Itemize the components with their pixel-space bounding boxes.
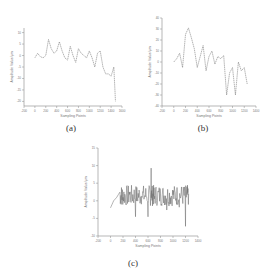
- svg-text:-200: -200: [159, 109, 165, 113]
- svg-text:-200: -200: [21, 109, 27, 113]
- svg-text:20: 20: [156, 38, 160, 42]
- chart-b: -2000200400600800100012001400-40-30-20-1…: [140, 0, 268, 135]
- svg-text:1600: 1600: [119, 109, 126, 113]
- svg-text:Sampling Points: Sampling Points: [60, 114, 86, 118]
- chart-b-plot: -2000200400600800100012001400-40-30-20-1…: [140, 0, 268, 120]
- svg-text:-15: -15: [17, 88, 22, 92]
- svg-text:40: 40: [156, 16, 160, 20]
- svg-text:Sampling Points: Sampling Points: [135, 244, 161, 248]
- svg-text:200: 200: [43, 109, 48, 113]
- svg-text:200: 200: [120, 239, 125, 243]
- chart-a: -20002004006008001000120014001600-20-15-…: [0, 0, 134, 135]
- svg-text:Amplitude Value/μm: Amplitude Value/μm: [84, 176, 88, 207]
- svg-text:-10: -10: [91, 234, 96, 238]
- svg-text:-200: -200: [95, 239, 101, 243]
- svg-text:-10: -10: [17, 76, 22, 80]
- svg-text:1200: 1200: [97, 109, 104, 113]
- svg-text:Sampling Points: Sampling Points: [196, 114, 222, 118]
- svg-text:5: 5: [19, 42, 21, 46]
- svg-text:10: 10: [156, 49, 160, 53]
- svg-text:Amplitude Value/μm: Amplitude Value/μm: [148, 46, 152, 77]
- svg-text:800: 800: [158, 239, 163, 243]
- svg-text:0: 0: [34, 109, 36, 113]
- svg-text:400: 400: [195, 109, 200, 113]
- svg-text:-20: -20: [17, 99, 22, 103]
- svg-text:1000: 1000: [170, 239, 177, 243]
- chart-a-plot: -20002004006008001000120014001600-20-15-…: [0, 0, 134, 120]
- svg-text:400: 400: [133, 239, 138, 243]
- svg-text:-10: -10: [155, 71, 160, 75]
- chart-c: -2000200400600800100012001400-10-5051015…: [70, 140, 210, 260]
- svg-text:1400: 1400: [253, 109, 260, 113]
- svg-text:0: 0: [157, 60, 159, 64]
- svg-text:-30: -30: [155, 93, 160, 97]
- svg-text:1200: 1200: [182, 239, 189, 243]
- svg-text:Amplitude Value/μm: Amplitude Value/μm: [10, 51, 14, 82]
- svg-text:10: 10: [92, 164, 96, 168]
- svg-text:400: 400: [54, 109, 59, 113]
- svg-text:-5: -5: [92, 216, 95, 220]
- svg-text:-40: -40: [155, 104, 160, 108]
- svg-text:0: 0: [110, 239, 112, 243]
- svg-text:1200: 1200: [241, 109, 248, 113]
- svg-text:-5: -5: [18, 65, 21, 69]
- svg-text:200: 200: [183, 109, 188, 113]
- svg-text:-20: -20: [155, 82, 160, 86]
- svg-text:0: 0: [19, 54, 21, 58]
- svg-text:800: 800: [76, 109, 81, 113]
- svg-text:5: 5: [93, 181, 95, 185]
- caption-a: (a): [56, 123, 86, 133]
- caption-b: (b): [188, 123, 218, 133]
- svg-text:600: 600: [145, 239, 150, 243]
- svg-text:600: 600: [206, 109, 211, 113]
- svg-text:800: 800: [218, 109, 223, 113]
- chart-c-plot: -2000200400600800100012001400-10-5051015…: [70, 140, 210, 258]
- svg-text:1400: 1400: [108, 109, 115, 113]
- svg-text:0: 0: [173, 109, 175, 113]
- svg-text:30: 30: [156, 27, 160, 31]
- svg-text:600: 600: [65, 109, 70, 113]
- svg-text:10: 10: [18, 31, 22, 35]
- svg-text:15: 15: [92, 146, 96, 150]
- caption-c: (c): [118, 258, 148, 268]
- svg-text:0: 0: [93, 199, 95, 203]
- svg-text:1400: 1400: [195, 239, 202, 243]
- svg-text:1000: 1000: [86, 109, 93, 113]
- svg-text:1000: 1000: [229, 109, 236, 113]
